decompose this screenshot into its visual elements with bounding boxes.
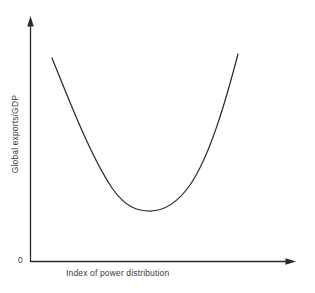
- data-curve-global-exports: [52, 54, 238, 211]
- chart-canvas: [0, 0, 315, 293]
- x-axis-label: Index of power distribution: [66, 269, 169, 278]
- y-axis-label: Global exports/GDP: [11, 95, 20, 173]
- chart-figure: Global exports/GDP Index of power distri…: [0, 0, 315, 293]
- arrow-up-icon: [27, 16, 34, 27]
- origin-tick-label: 0: [18, 256, 23, 265]
- arrow-right-icon: [286, 258, 297, 265]
